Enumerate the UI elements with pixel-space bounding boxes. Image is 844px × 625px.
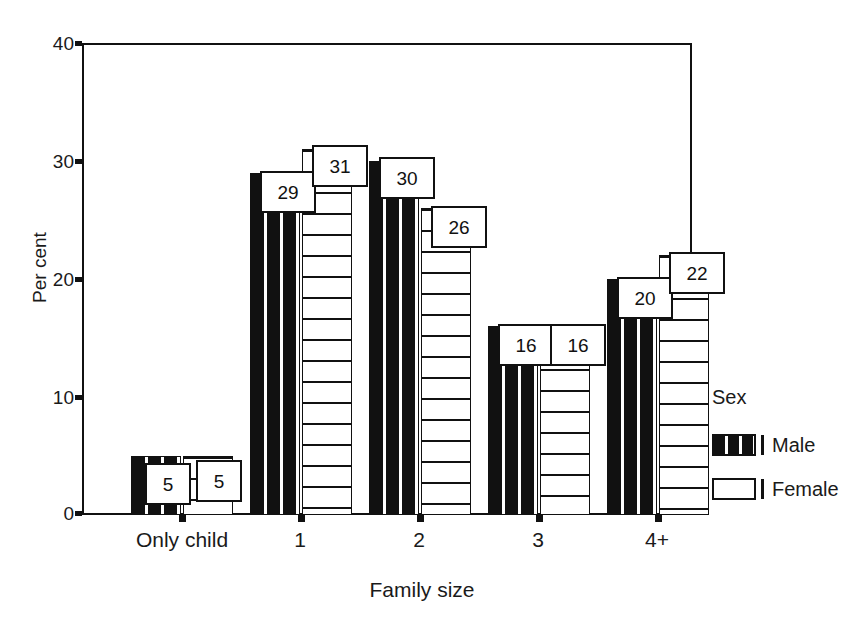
y-tick-label-0: 0 xyxy=(28,504,74,523)
legend-swatch-female-icon xyxy=(712,478,756,500)
y-tick-mark-40 xyxy=(75,41,82,46)
value-label-male-only-child: 5 xyxy=(145,463,191,505)
value-label-female-2: 26 xyxy=(431,206,487,248)
legend-item-male[interactable]: Male xyxy=(712,434,840,456)
x-tick-label-2: 2 xyxy=(361,528,477,552)
legend-tick-male-icon xyxy=(761,435,764,455)
x-tick-mark-1 xyxy=(298,515,305,522)
x-tick-mark-3 xyxy=(536,515,543,522)
value-label-male-3: 16 xyxy=(498,324,554,366)
legend-label-male: Male xyxy=(772,434,815,456)
x-tick-mark-only-child xyxy=(179,515,186,522)
value-label-female-3: 16 xyxy=(550,324,606,366)
bar-female-2[interactable] xyxy=(421,208,471,515)
x-axis-title: Family size xyxy=(0,578,844,602)
y-tick-mark-10 xyxy=(75,395,82,400)
x-tick-label-1: 1 xyxy=(242,528,358,552)
value-label-female-4plus: 22 xyxy=(669,252,725,294)
legend-tick-female-icon xyxy=(761,479,764,499)
y-tick-label-10: 10 xyxy=(28,388,74,407)
legend-item-female[interactable]: Female xyxy=(712,478,840,500)
y-tick-label-30: 30 xyxy=(28,152,74,171)
y-tick-mark-30 xyxy=(75,159,82,164)
value-label-male-1: 29 xyxy=(260,171,316,213)
y-tick-mark-0 xyxy=(75,511,82,516)
legend-label-female: Female xyxy=(772,478,839,500)
x-tick-label-4plus: 4+ xyxy=(599,528,715,552)
value-label-female-only-child: 5 xyxy=(196,460,242,502)
legend-title: Sex xyxy=(712,386,840,408)
y-axis-title: Per cent xyxy=(30,213,49,323)
value-label-female-1: 31 xyxy=(312,145,368,187)
y-tick-label-40: 40 xyxy=(28,34,74,53)
bar-male-1[interactable] xyxy=(250,173,300,515)
y-tick-mark-20 xyxy=(75,277,82,282)
legend: Sex Male Female xyxy=(712,386,840,522)
bars-layer xyxy=(82,43,692,515)
x-tick-label-only-child: Only child xyxy=(102,528,262,552)
bar-male-2[interactable] xyxy=(369,161,419,515)
legend-swatch-male-icon xyxy=(712,434,756,456)
x-tick-label-3: 3 xyxy=(480,528,596,552)
x-tick-mark-2 xyxy=(417,515,424,522)
x-tick-mark-4plus xyxy=(655,515,662,522)
bar-chart: 40 30 20 10 0 Per cent 5 5 29 31 30 26 xyxy=(0,0,844,625)
value-label-male-4plus: 20 xyxy=(617,277,673,319)
value-label-male-2: 30 xyxy=(379,157,435,199)
